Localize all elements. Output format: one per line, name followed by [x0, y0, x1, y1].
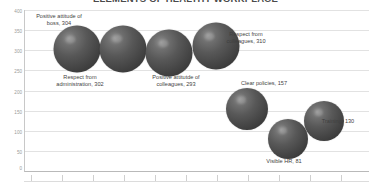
- data-label-positive-attitude-colleagues: Positive attitutde of colleagues, 293: [130, 74, 222, 89]
- data-label-respect-colleagues: Respect from colleagues, 310: [205, 31, 287, 46]
- data-label-clear-policies: Clear policies, 157: [222, 80, 306, 87]
- x-tick: [155, 175, 156, 181]
- chart-container: ELEMENTS OF HEALTHY WORKPLACE 400 350 30…: [0, 0, 371, 189]
- y-tick-label: 200: [14, 89, 22, 94]
- data-label-respect-administration: Respect from administration, 302: [38, 74, 122, 89]
- x-tick: [62, 175, 63, 181]
- bubble-visible-hr[interactable]: [268, 119, 308, 159]
- gridline: 50: [25, 151, 369, 152]
- bubble-respect-colleagues[interactable]: [192, 23, 239, 70]
- x-tick: [341, 175, 342, 181]
- y-tick-label: 100: [14, 129, 22, 134]
- y-origin-label: 0: [19, 166, 22, 171]
- bubble-clear-policies[interactable]: [226, 88, 268, 130]
- gridline: 400: [25, 10, 369, 11]
- data-label-visible-hr: Visible HR, 81: [253, 158, 315, 165]
- y-tick-label: 50: [17, 149, 22, 154]
- chart-title: ELEMENTS OF HEALTHY WORKPLACE: [0, 0, 371, 4]
- bubble-positive-attitude-boss[interactable]: [100, 25, 147, 72]
- y-tick-label: 350: [14, 29, 22, 34]
- plot-area: 400 350 300 250 200 150 100 50 0: [24, 10, 369, 172]
- gridline: 200: [25, 91, 369, 92]
- x-tick: [310, 175, 311, 181]
- bubble-respect-administration[interactable]: [53, 26, 100, 73]
- x-tick: [31, 175, 32, 181]
- bubble-positive-attitude-colleagues[interactable]: [146, 30, 193, 77]
- x-tick: [217, 175, 218, 181]
- x-axis-baseline: [24, 181, 369, 182]
- x-tick: [186, 175, 187, 181]
- data-label-positive-attitude-boss: Positive attitude of boss, 304: [16, 13, 102, 28]
- y-tick-label: 300: [14, 49, 22, 54]
- y-tick-label: 150: [14, 109, 22, 114]
- x-tick: [124, 175, 125, 181]
- y-tick-label: 250: [14, 69, 22, 74]
- x-axis: [24, 172, 369, 184]
- data-label-training: Training, 130: [310, 118, 366, 125]
- x-tick: [279, 175, 280, 181]
- x-tick: [248, 175, 249, 181]
- x-tick: [93, 175, 94, 181]
